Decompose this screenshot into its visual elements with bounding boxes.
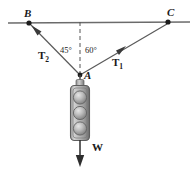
support-line: [8, 22, 190, 23]
label-point-a: A: [84, 70, 91, 81]
point-b-dot: [26, 20, 31, 25]
traffic-lamp-top: [73, 91, 86, 104]
point-c-dot: [165, 19, 170, 24]
label-tension-t2: T2: [38, 50, 49, 64]
figure-canvas: [0, 0, 192, 181]
label-tension-t2-subscript: 2: [45, 55, 49, 64]
label-tension-t1-subscript: 1: [119, 62, 123, 71]
label-weight-w: W: [92, 142, 103, 153]
traffic-lamp-bottom: [73, 122, 86, 135]
label-point-b: B: [24, 8, 31, 19]
physics-figure: B C A T2 T1 W 45° 60°: [0, 0, 192, 181]
label-tension-t1: T1: [112, 57, 123, 71]
weight-arrowhead-icon: [76, 155, 84, 167]
label-angle-right: 60°: [85, 46, 97, 55]
label-angle-left: 45°: [60, 46, 72, 55]
label-point-c: C: [167, 7, 174, 18]
traffic-lamp-middle: [73, 106, 86, 119]
